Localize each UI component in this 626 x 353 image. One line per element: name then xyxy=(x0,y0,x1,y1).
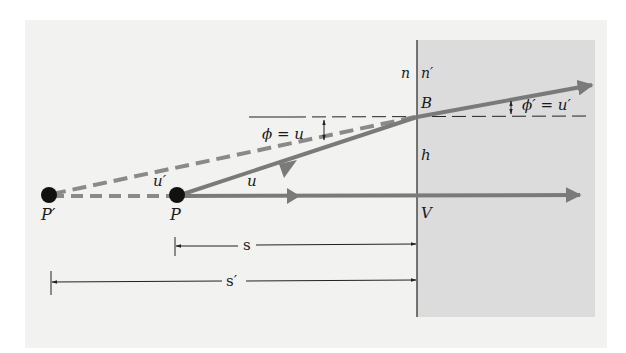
label-P-prime: P′ xyxy=(40,205,56,224)
label-phi-equals-u: ϕ = u xyxy=(262,125,304,143)
label-u-prime: u′ xyxy=(153,172,167,190)
label-s-prime: s′ xyxy=(226,272,238,290)
image-point-P-prime xyxy=(41,187,57,203)
label-B: B xyxy=(420,94,432,112)
label-n: n xyxy=(401,65,410,81)
label-u: u xyxy=(247,172,257,190)
refraction-diagram: n n′ B h V ϕ = u ϕ′ = u′ u u′ P′ P s s′ xyxy=(0,0,626,353)
label-P: P xyxy=(169,205,181,224)
object-point-P xyxy=(169,187,185,203)
medium-n-prime-region xyxy=(417,40,595,317)
label-n-prime: n′ xyxy=(421,65,434,81)
axial-ray xyxy=(177,195,580,196)
label-phi-prime-equals-u-prime: ϕ′ = u′ xyxy=(522,96,571,114)
label-h: h xyxy=(421,146,431,164)
label-s: s xyxy=(243,236,251,254)
